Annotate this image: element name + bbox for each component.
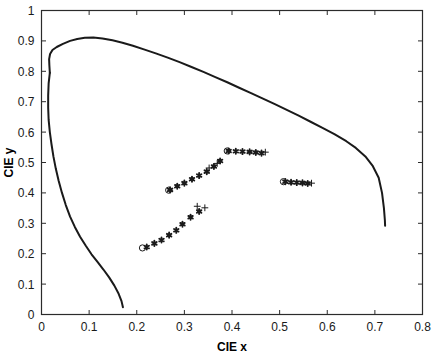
y-tick-label: 0.2 <box>18 247 35 261</box>
x-tick-label: 0.2 <box>128 320 145 334</box>
y-tick-label: 0.5 <box>18 156 35 170</box>
y-tick-label: 1 <box>28 4 35 18</box>
chart-canvas: 00.10.20.30.40.50.60.70.8 00.10.20.30.40… <box>0 0 437 360</box>
x-tick-label: 0.8 <box>414 320 431 334</box>
y-tick-label: 0.9 <box>18 34 35 48</box>
y-tick-label: 0.1 <box>18 278 35 292</box>
x-tick-label: 0.4 <box>224 320 241 334</box>
plot-area <box>42 11 423 315</box>
x-axis-tick-labels: 00.10.20.30.40.50.60.70.8 <box>38 320 431 334</box>
x-tick-label: 0 <box>38 320 45 334</box>
y-tick-label: 0.8 <box>18 65 35 79</box>
y-tick-label: 0 <box>28 308 35 322</box>
y-tick-label: 0.4 <box>18 186 35 200</box>
y-tick-label: 0.7 <box>18 95 35 109</box>
plot-frame <box>42 11 423 315</box>
cie-chromaticity-figure: 00.10.20.30.40.50.60.70.8 00.10.20.30.40… <box>0 0 437 360</box>
y-tick-label: 0.6 <box>18 126 35 140</box>
y-axis-tick-labels: 00.10.20.30.40.50.60.70.80.91 <box>18 4 35 322</box>
x-tick-label: 0.7 <box>367 320 384 334</box>
x-tick-label: 0.3 <box>176 320 193 334</box>
y-tick-label: 0.3 <box>18 217 35 231</box>
x-axis-title: CIE x <box>217 340 247 354</box>
y-axis-title: CIE y <box>2 147 16 177</box>
x-tick-label: 0.1 <box>81 320 98 334</box>
x-tick-label: 0.6 <box>319 320 336 334</box>
x-tick-label: 0.5 <box>271 320 288 334</box>
